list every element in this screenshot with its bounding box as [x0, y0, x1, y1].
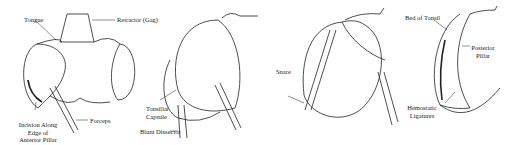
label-incision: Incision Along Edge of Anterior Pillar [14, 121, 62, 144]
panel-3-drawing [288, 8, 398, 125]
label-tonsillar-capsule: Tonsillar Capsule [146, 105, 169, 120]
panel-1-drawing [24, 14, 135, 133]
tonsillectomy-illustration [0, 0, 527, 145]
label-forceps: Forceps [90, 117, 111, 125]
label-bed-of-tonsil: Bed of Tonsil [405, 14, 440, 22]
label-tongue: Tongue [24, 16, 43, 24]
label-hemostatic-ligatures: Hemostatic Ligatures [402, 104, 442, 119]
label-snare: Snare [276, 68, 291, 76]
label-retractor: Retractor (Gag) [117, 16, 158, 24]
label-posterior-pillar: Posterior Pillar [468, 44, 498, 59]
panel-2-drawing [160, 13, 258, 138]
panel-4-drawing [434, 6, 500, 113]
label-blunt-dissector: Blunt Dissector [140, 128, 181, 136]
